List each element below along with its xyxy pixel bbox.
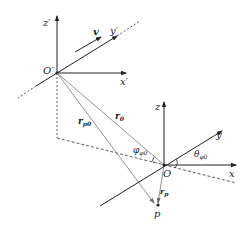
- y-prime-label: y′: [109, 25, 119, 36]
- moving-frame: z′ x′ y′ v O′: [18, 16, 140, 98]
- theta-angle-arc: [175, 159, 177, 168]
- x-label: x: [229, 168, 235, 179]
- rp0-vector: [57, 73, 154, 203]
- phi-angle-arc: [153, 157, 155, 163]
- y-label: y: [215, 129, 222, 140]
- y-prime-axis-back-dashed: [18, 86, 36, 98]
- origin-prime-label: O′: [43, 65, 54, 76]
- rp-label: rp: [160, 186, 169, 198]
- ground-dashed-line: [57, 138, 236, 183]
- origin-label: O: [163, 168, 171, 179]
- point-p-label: p: [154, 208, 161, 219]
- projection-lines: [57, 73, 236, 183]
- y-prime-axis: [57, 36, 117, 73]
- point-p-dot: [156, 203, 159, 206]
- y-prime-axis-dashed-extension: [117, 21, 140, 36]
- z-prime-label: z′: [42, 17, 51, 28]
- theta-label: θφ0: [194, 149, 208, 161]
- velocity-arrow: [75, 37, 101, 52]
- z-label: z: [154, 101, 161, 112]
- velocity-label: v: [93, 26, 99, 37]
- position-vectors: [57, 73, 164, 207]
- r0-label: r0: [115, 111, 125, 122]
- rp0-label: rp0: [78, 116, 92, 128]
- origin-dot: [162, 163, 165, 166]
- coordinate-frames-diagram: z′ x′ y′ v O′ z x y O r0 rp0: [0, 0, 247, 232]
- x-prime-label: x′: [120, 76, 129, 87]
- phi-label: φφ0: [133, 145, 148, 157]
